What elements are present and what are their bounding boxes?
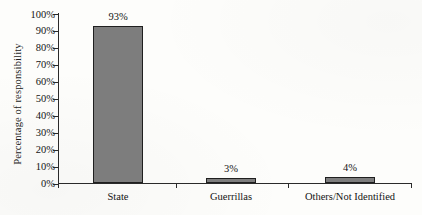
y-axis-tick-label: 80%: [14, 42, 55, 53]
y-axis-tick-labels: 0%10%20%30%40%50%60%70%80%90%100%: [14, 8, 55, 190]
bar: [93, 26, 143, 184]
y-axis-tick-label: 90%: [14, 25, 55, 36]
y-axis-tick-label: 60%: [14, 76, 55, 87]
y-axis-tick-label: 30%: [14, 127, 55, 138]
y-axis-tick-label: 20%: [14, 144, 55, 155]
y-axis-line: [58, 13, 59, 184]
x-axis-tick-mark: [58, 184, 59, 188]
y-axis-tick-mark: [53, 99, 58, 100]
bar-value-label: 93%: [88, 11, 148, 23]
y-axis-tick-mark: [53, 48, 58, 49]
y-axis-tick-label: 100%: [14, 9, 55, 20]
bar: [206, 178, 256, 183]
bar-value-label: 3%: [201, 163, 261, 175]
y-axis-tick-mark: [53, 82, 58, 83]
y-axis-tick-mark: [53, 167, 58, 168]
bar: [325, 177, 375, 184]
y-axis-tick-label: 10%: [14, 161, 55, 172]
y-axis-tick-mark: [53, 31, 58, 32]
y-axis-tick-label: 50%: [14, 93, 55, 104]
y-axis-tick-mark: [53, 116, 58, 117]
x-axis-tick-mark: [288, 184, 289, 188]
y-axis-tick-label: 40%: [14, 110, 55, 121]
y-axis-tick-mark: [53, 14, 58, 15]
y-axis-tick-mark: [53, 133, 58, 134]
x-axis-category-label: Others/Not Identified: [280, 190, 420, 203]
y-axis-tick-mark: [53, 65, 58, 66]
x-axis-tick-mark: [176, 184, 177, 188]
bar-value-label: 4%: [320, 162, 380, 174]
bar-chart: Percentage of responsibility 0%10%20%30%…: [0, 0, 422, 215]
y-axis-tick-mark: [53, 150, 58, 151]
x-axis-tick-mark: [411, 184, 412, 188]
y-axis-tick-label: 0%: [14, 178, 55, 189]
y-axis-tick-label: 70%: [14, 59, 55, 70]
